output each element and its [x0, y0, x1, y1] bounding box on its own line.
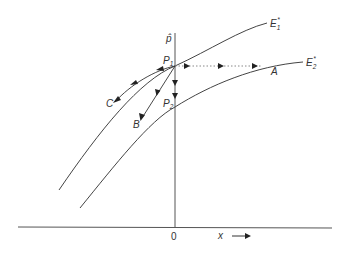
arrow-a-1	[184, 63, 190, 69]
p2-label: P2	[163, 98, 174, 110]
p1-label: P1	[163, 55, 174, 67]
arrow-a-3	[252, 63, 258, 69]
x-axis	[18, 227, 332, 228]
e2-label: E2*	[306, 55, 317, 70]
phase-diagram: p̂ 0 x E1* E2* P1 P2 A B C	[0, 0, 344, 256]
b-label: B	[133, 119, 140, 130]
x-label: x	[217, 230, 224, 241]
a-label: A	[270, 66, 278, 77]
c-label: C	[106, 98, 114, 109]
arrow-down-1	[172, 80, 178, 86]
arrow-c-1	[156, 66, 164, 71]
x-direction-arrowhead	[245, 233, 251, 239]
arrow-c-2	[130, 80, 138, 85]
p-hat-label: p̂	[165, 33, 172, 44]
e1-label: E1*	[270, 16, 281, 31]
path-c	[115, 66, 175, 102]
arrow-down-2	[172, 93, 178, 99]
origin-label: 0	[171, 231, 177, 242]
arrow-a-2	[218, 63, 224, 69]
curve-e2	[80, 62, 303, 208]
